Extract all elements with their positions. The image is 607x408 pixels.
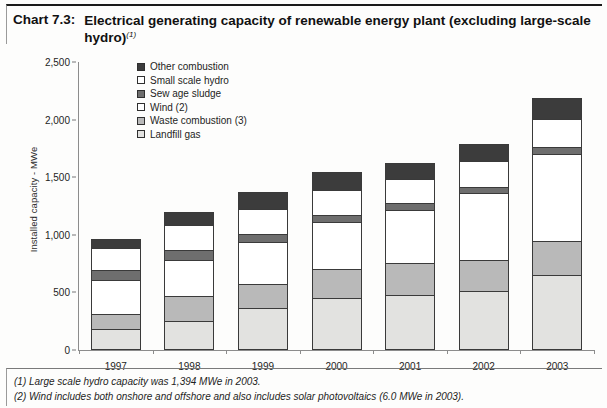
bar-segment	[386, 211, 434, 263]
bar-slot	[300, 62, 374, 350]
bar-segment	[313, 191, 361, 216]
legend-item-label: Wind (2)	[150, 102, 188, 113]
bar-segment	[239, 193, 287, 210]
bar-slot	[373, 62, 447, 350]
bar-segment	[92, 281, 140, 314]
bar-segment	[460, 292, 508, 349]
bar-segment	[92, 330, 140, 349]
bar-segment	[313, 173, 361, 191]
bar-slot	[447, 62, 521, 350]
stacked-bar[interactable]	[238, 192, 288, 350]
legend-item-label: Waste combustion (3)	[150, 115, 247, 126]
stacked-bar[interactable]	[385, 163, 435, 350]
bar-segment	[313, 216, 361, 223]
y-axis-tick-mark	[72, 234, 76, 235]
bar-segment	[533, 276, 581, 349]
y-axis-tick-mark	[72, 292, 76, 293]
bar-segment	[460, 261, 508, 292]
bar-segment	[239, 309, 287, 349]
chart-title-block: Chart 7.3: Electrical generating capacit…	[6, 4, 602, 44]
bar-segment	[533, 120, 581, 147]
bar-segment	[386, 296, 434, 349]
y-axis-ticks: 05001,0001,5002,0002,500	[28, 44, 76, 354]
bar-segment	[386, 180, 434, 205]
legend-item[interactable]: Waste combustion (3)	[137, 114, 247, 128]
page-title: Electrical generating capacity of renewa…	[84, 12, 596, 47]
footnote-2: (2) Wind includes both onshore and offsh…	[14, 389, 598, 404]
bar-slot	[520, 62, 594, 350]
bar-segment	[165, 297, 213, 321]
y-axis-tick-label: 2,000	[45, 114, 70, 125]
bar-segment	[460, 194, 508, 261]
bar-segment	[239, 243, 287, 285]
bar-segment	[239, 285, 287, 309]
x-axis-tick-mark	[520, 350, 521, 354]
legend-swatch-icon	[137, 103, 145, 111]
x-axis-tick-mark	[594, 350, 595, 354]
bar-segment	[313, 223, 361, 270]
bar-segment	[386, 204, 434, 211]
bar-segment	[313, 270, 361, 299]
title-footnote-marker: (1)	[126, 30, 136, 39]
bar-segment	[92, 249, 140, 270]
bar-segment	[239, 210, 287, 234]
bar-segment	[165, 251, 213, 261]
y-axis-tick-mark	[72, 177, 76, 178]
legend-swatch-icon	[137, 117, 145, 125]
x-axis-line	[78, 350, 594, 351]
bar-segment	[239, 235, 287, 244]
legend-item[interactable]: Other combustion	[137, 60, 247, 74]
stacked-bar[interactable]	[91, 239, 141, 350]
bar-segment	[460, 188, 508, 195]
x-axis-tick-mark	[447, 350, 448, 354]
legend-item[interactable]: Sew age sludge	[137, 87, 247, 101]
stacked-bar[interactable]	[164, 212, 214, 350]
y-axis-tick-mark	[72, 350, 76, 351]
bar-segment	[533, 155, 581, 242]
chart-title-text: Electrical generating capacity of renewa…	[84, 13, 590, 45]
bar-segment	[533, 99, 581, 120]
bar-segment	[533, 242, 581, 276]
y-axis-tick-mark	[72, 62, 76, 63]
legend-item[interactable]: Small scale hydro	[137, 74, 247, 88]
bar-segment	[386, 164, 434, 180]
footnotes-block: (1) Large scale hydro capacity was 1,394…	[6, 368, 602, 406]
x-axis-tick-mark	[226, 350, 227, 354]
y-axis-tick-label: 500	[53, 287, 70, 298]
chart-figure: Chart 7.3: Electrical generating capacit…	[0, 0, 607, 408]
bar-segment	[460, 162, 508, 188]
legend-swatch-icon	[137, 76, 145, 84]
legend-swatch-icon	[137, 90, 145, 98]
bar-segment	[92, 271, 140, 281]
bar-segment	[460, 145, 508, 162]
legend-swatch-icon	[137, 130, 145, 138]
legend-item[interactable]: Wind (2)	[137, 101, 247, 115]
bar-segment	[386, 264, 434, 296]
y-axis-tick-label: 1,500	[45, 172, 70, 183]
legend-item-label: Small scale hydro	[150, 75, 229, 86]
bar-segment	[165, 213, 213, 226]
bar-segment	[165, 322, 213, 349]
footnote-1: (1) Large scale hydro capacity was 1,394…	[14, 374, 598, 389]
plot-area: Installed capacity - MWe 05001,0001,5002…	[0, 44, 607, 368]
legend-item-label: Landfill gas	[150, 129, 201, 140]
stacked-bar[interactable]	[532, 98, 582, 350]
bar-segment	[165, 226, 213, 250]
x-axis-tick-mark	[373, 350, 374, 354]
legend-item-label: Sew age sludge	[150, 88, 221, 99]
stacked-bar[interactable]	[312, 172, 362, 350]
stacked-bar[interactable]	[459, 144, 509, 350]
bar-segment	[92, 240, 140, 249]
legend-item-label: Other combustion	[150, 61, 229, 72]
y-axis-tick-label: 1,000	[45, 229, 70, 240]
title-row: Chart 7.3: Electrical generating capacit…	[13, 12, 598, 47]
legend-item[interactable]: Landfill gas	[137, 128, 247, 142]
chart-number-label: Chart 7.3:	[13, 12, 84, 27]
chart-legend: Other combustionSmall scale hydroSew age…	[137, 60, 247, 141]
y-axis-tick-label: 0	[64, 345, 70, 356]
legend-swatch-icon	[137, 63, 145, 71]
x-axis-tick-mark	[79, 350, 80, 354]
bar-segment	[165, 261, 213, 297]
bar-segment	[533, 148, 581, 155]
bar-segment	[92, 315, 140, 331]
